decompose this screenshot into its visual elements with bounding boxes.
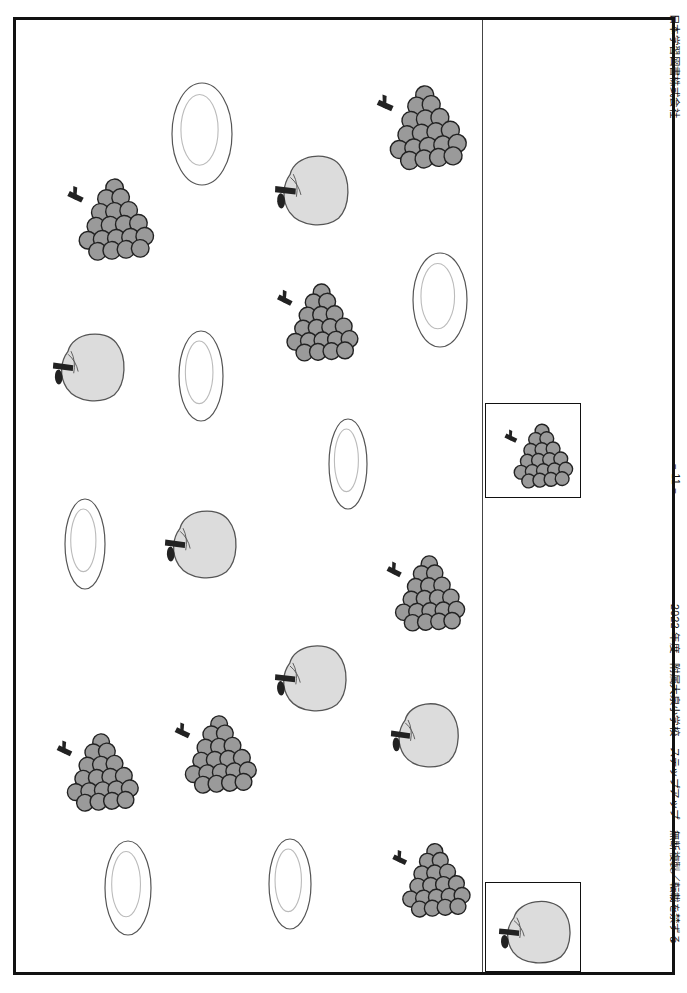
answer-box-apple[interactable] [485, 882, 581, 972]
grapes-icon [495, 418, 577, 489]
apple-icon [388, 696, 464, 770]
worksheet-page: ステ 日本学習図書株式会社 − 11 − 2022 年度 附属大泉小学校 ステッ… [0, 0, 687, 993]
plate-icon [412, 252, 468, 348]
plate-icon [268, 838, 312, 930]
plate-icon [328, 418, 368, 510]
apple-icon [50, 326, 130, 404]
plate-icon [64, 498, 106, 590]
grapes-icon [364, 77, 472, 173]
grapes-icon [45, 727, 142, 813]
plate-icon [178, 330, 224, 422]
grapes-icon [55, 172, 159, 263]
answer-key-column [483, 20, 672, 972]
grapes-icon [376, 550, 468, 632]
publisher-name-text: 日本学習図書株式会社 [668, 14, 683, 118]
apple-icon [271, 147, 354, 228]
page-number: − 11 − [670, 464, 681, 495]
copyright-notice: 2022 年度 附属大泉小学校 ステップアップ 無断複製／転載を禁ずる [668, 604, 683, 944]
grapes-icon [381, 837, 474, 919]
plate-icon [171, 82, 233, 186]
apple-icon [162, 503, 242, 581]
grapes-icon [163, 709, 260, 795]
counting-worksheet-canvas [16, 20, 482, 972]
answer-box-grapes[interactable] [485, 403, 581, 498]
apple-icon [272, 637, 353, 714]
plate-icon [104, 840, 152, 936]
apple-icon [496, 893, 577, 966]
grapes-icon [266, 278, 362, 363]
